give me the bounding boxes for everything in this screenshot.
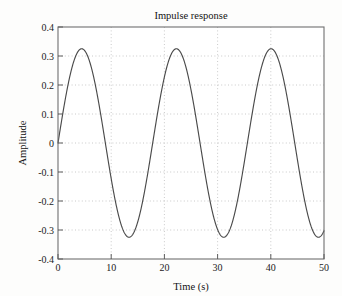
chart-title: Impulse response [154, 10, 228, 21]
x-tick-label: 40 [266, 262, 276, 273]
y-tick-label: -0.3 [38, 225, 54, 236]
y-tick-label: -0.2 [38, 196, 54, 207]
y-tick-label: 0.1 [42, 109, 55, 120]
chart-svg: 0.4 0.3 0.2 0.1 0 -0.1 -0.2 -0.3 -0.4 0 … [0, 0, 342, 296]
y-tick-label: 0.3 [42, 51, 55, 62]
figure-canvas: 0.4 0.3 0.2 0.1 0 -0.1 -0.2 -0.3 -0.4 0 … [0, 0, 342, 296]
y-axis-label: Amplitude [17, 120, 28, 165]
y-tick-label: 0 [49, 138, 54, 149]
y-tick-label: 0.2 [42, 80, 55, 91]
y-tick-labels: 0.4 0.3 0.2 0.1 0 -0.1 -0.2 -0.3 -0.4 [38, 22, 54, 265]
x-axis-label: Time (s) [173, 281, 209, 293]
x-tick-label: 30 [213, 262, 223, 273]
x-tick-labels: 0 10 20 30 40 50 [56, 262, 330, 273]
x-tick-label: 10 [106, 262, 116, 273]
y-tick-label: -0.4 [38, 254, 54, 265]
y-tick-label: -0.1 [38, 167, 54, 178]
x-tick-label: 0 [56, 262, 61, 273]
x-tick-label: 20 [159, 262, 169, 273]
x-tick-label: 50 [319, 262, 329, 273]
y-tick-label: 0.4 [42, 22, 55, 33]
